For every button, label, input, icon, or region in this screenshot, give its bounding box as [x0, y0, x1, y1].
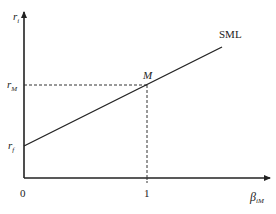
rf-label: rf [8, 139, 15, 154]
sml-chart: SML M ri rM rf 0 1 βiM [0, 0, 276, 214]
rm-label: rM [7, 78, 18, 93]
y-axis-label: ri [13, 10, 19, 25]
point-m-label: M [142, 69, 153, 81]
x-axis-label: βiM [249, 190, 265, 205]
origin-label: 0 [20, 187, 26, 199]
x-tick-one-label: 1 [144, 187, 150, 199]
sml-label: SML [219, 28, 242, 40]
sml-line [24, 47, 222, 146]
